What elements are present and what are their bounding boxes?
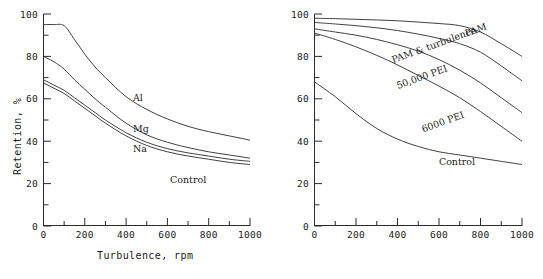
- curve-label-pam-turbulence: PAM & turbulence: [390, 24, 478, 65]
- curve-label-mg: Mg: [133, 123, 149, 134]
- curve-control: [315, 82, 523, 165]
- x-axis-title-left: Turbulence, rpm: [97, 250, 193, 261]
- y-tick-label: 0: [32, 221, 38, 232]
- curve-label-na: Na: [133, 143, 147, 154]
- curve-label-control: Control: [439, 156, 475, 167]
- x-tick-label: 600: [430, 229, 448, 240]
- x-tick-label: 1000: [510, 229, 534, 240]
- x-tick-label: 200: [347, 229, 365, 240]
- x-tick-label: 0: [311, 229, 317, 240]
- y-tick-label: 80: [297, 51, 309, 62]
- figure-root: 0 20 40 60 80 100 0 200 400 600 800 1000…: [0, 0, 543, 279]
- x-tick-label: 800: [471, 229, 489, 240]
- chart-panel-left: 0 20 40 60 80 100 0 200 400 600 800 1000…: [0, 0, 272, 279]
- chart-panel-right: 0 20 40 60 80 100 0 200 400 600 800 1000…: [272, 0, 543, 279]
- y-tick-label: 80: [26, 51, 38, 62]
- y-tick-label: 40: [297, 136, 309, 147]
- x-tick-label: 600: [158, 229, 176, 240]
- curve-label-6000-pei: 6000 PEI: [420, 109, 466, 135]
- y-minor-ticks-left: [44, 35, 49, 205]
- x-tick-label: 400: [388, 229, 406, 240]
- curve-label-control: Control: [170, 174, 206, 185]
- y-tick-label: 20: [26, 178, 38, 189]
- curve-50-000-pei: [315, 29, 523, 113]
- x-tick-label: 200: [76, 229, 94, 240]
- curve-label-al: Al: [132, 92, 143, 103]
- y-tick-label: 60: [297, 93, 309, 104]
- x-tick-label: 0: [40, 229, 46, 240]
- x-tick-label: 1000: [238, 229, 262, 240]
- y-tick-label: 100: [20, 9, 38, 20]
- x-tick-label: 800: [200, 229, 218, 240]
- y-tick-label: 0: [303, 221, 309, 232]
- y-tick-label: 100: [291, 9, 309, 20]
- y-tick-label: 20: [297, 178, 309, 189]
- y-axis-title-left: Retention, %: [12, 98, 23, 175]
- curve-group-right: [315, 18, 523, 164]
- x-tick-label: 400: [117, 229, 135, 240]
- chart-svg-left: 0 20 40 60 80 100 0 200 400 600 800 1000…: [0, 0, 272, 279]
- y-tick-label: 60: [26, 93, 38, 104]
- y-minor-ticks-right: [315, 35, 320, 205]
- y-tick-label: 40: [26, 136, 38, 147]
- chart-svg-right: 0 20 40 60 80 100 0 200 400 600 800 1000…: [272, 0, 543, 279]
